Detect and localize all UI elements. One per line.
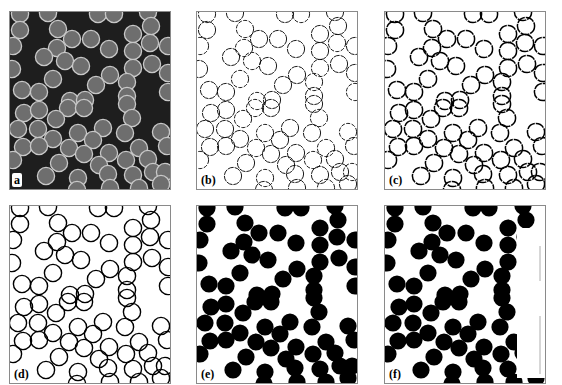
panel-f-image [385,206,545,383]
panel-b-image [197,12,357,189]
panel-c-image [385,12,545,189]
panel-c-thick-edges: (c) [384,11,546,190]
panel-f-filled-masked: (f) [384,205,546,384]
panel-e-filled: (e) [196,205,358,384]
panel-e-label: (e) [199,367,216,381]
panel-d-image [10,206,170,383]
panel-f-label: (f) [387,367,403,381]
panel-a-image [10,12,170,189]
panel-b-thin-edges: (b) [196,11,358,190]
panel-a-label: a [12,173,22,187]
panel-c-label: (c) [387,173,404,187]
panel-e-image [197,206,357,383]
panel-b-label: (b) [199,173,218,187]
panel-d-label: (d) [12,367,31,381]
panel-d-clean-edges: (d) [9,205,171,384]
panel-a-micrograph: a [9,11,171,190]
